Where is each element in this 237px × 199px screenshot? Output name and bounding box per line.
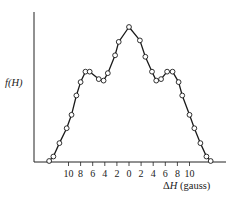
data-point [101, 78, 106, 83]
data-point [113, 53, 118, 58]
x-tick-label: 8 [175, 168, 180, 179]
data-point [57, 141, 62, 146]
data-point [165, 69, 170, 74]
data-point [187, 112, 192, 117]
x-tick-label: 10 [64, 168, 74, 179]
data-point [64, 126, 69, 131]
data-point [204, 154, 209, 159]
data-point [198, 141, 203, 146]
x-tick-label: 2 [114, 168, 119, 179]
data-point [87, 69, 92, 74]
data-point [180, 93, 185, 98]
data-point [116, 39, 121, 44]
data-point [192, 126, 197, 131]
x-tick-label: 4 [102, 168, 107, 179]
x-tick-label: 8 [78, 168, 83, 179]
data-point [78, 80, 83, 85]
data-point [176, 80, 181, 85]
x-tick-label: 10 [185, 168, 195, 179]
x-tick-label: 2 [139, 168, 144, 179]
data-point [159, 77, 164, 82]
data-point [47, 159, 52, 164]
line-chart: 1086420246810 f(H) ΔH (gauss) [0, 0, 237, 199]
data-point [96, 77, 101, 82]
x-tick-label: 6 [163, 168, 168, 179]
data-point [170, 69, 175, 74]
x-axis-ticks [69, 162, 190, 166]
data-line [49, 27, 211, 161]
data-points [47, 25, 213, 164]
data-point [51, 154, 56, 159]
data-point [208, 159, 213, 164]
data-point [150, 69, 155, 74]
y-axis-label: f(H) [5, 77, 23, 89]
x-axis-label: ΔH (gauss) [163, 180, 211, 192]
data-point [105, 71, 110, 76]
data-point [127, 25, 132, 30]
x-tick-label: 0 [127, 168, 132, 179]
x-tick-label: 4 [151, 168, 156, 179]
data-point [143, 54, 148, 59]
data-point [69, 112, 74, 117]
data-point [137, 38, 142, 43]
x-axis-tick-labels: 1086420246810 [64, 168, 195, 179]
data-point [154, 78, 159, 83]
x-tick-label: 6 [90, 168, 95, 179]
data-point [74, 93, 79, 98]
